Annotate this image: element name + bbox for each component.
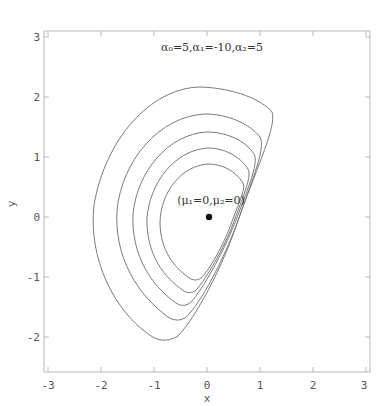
point-annotation: (μ₁=0,μ₂=0) [177, 194, 245, 207]
svg-text:1: 1 [257, 379, 264, 392]
y-axis-label: y [5, 200, 18, 207]
svg-text:0: 0 [204, 379, 211, 392]
svg-text:3: 3 [33, 31, 40, 44]
svg-text:2: 2 [33, 91, 40, 104]
svg-text:3: 3 [361, 379, 368, 392]
origin-point [206, 214, 212, 220]
contour-lines [93, 87, 273, 340]
svg-text:-3: -3 [41, 379, 54, 392]
contour-plot: -3 -2 -1 0 1 2 3 3 2 1 0 -1 -2 x y α₀=5,… [0, 0, 378, 406]
contour-4 [147, 148, 249, 293]
contour-5 [160, 164, 244, 280]
x-tick-labels: -3 -2 -1 0 1 2 3 [41, 379, 367, 392]
svg-text:1: 1 [33, 151, 40, 164]
svg-text:-1: -1 [147, 379, 160, 392]
parameters-annotation: α₀=5,α₁=-10,α₂=5 [161, 41, 263, 54]
svg-text:0: 0 [33, 211, 40, 224]
x-axis-label: x [204, 392, 211, 405]
svg-text:-2: -2 [94, 379, 107, 392]
svg-text:2: 2 [310, 379, 317, 392]
svg-text:-2: -2 [27, 331, 40, 344]
y-tick-labels: 3 2 1 0 -1 -2 [27, 31, 40, 344]
contour-2 [117, 114, 262, 320]
svg-text:-1: -1 [27, 271, 40, 284]
